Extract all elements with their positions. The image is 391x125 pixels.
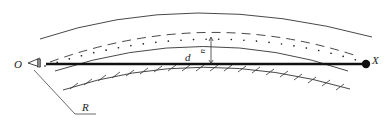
- target-point: [362, 60, 370, 68]
- diagram-canvas: O X d u R: [0, 0, 391, 125]
- label-target: X: [371, 54, 380, 66]
- label-observer: O: [14, 58, 22, 70]
- diagram-svg: O X d u R: [0, 0, 391, 125]
- hatched-ground-surface: [63, 65, 350, 90]
- label-offset: u: [199, 49, 209, 54]
- label-radius: R: [81, 101, 89, 113]
- label-distance: d: [185, 51, 191, 63]
- dashed-arc: [50, 32, 357, 62]
- observer-eye-icon: [28, 58, 41, 67]
- outer-solid-arc: [40, 13, 372, 39]
